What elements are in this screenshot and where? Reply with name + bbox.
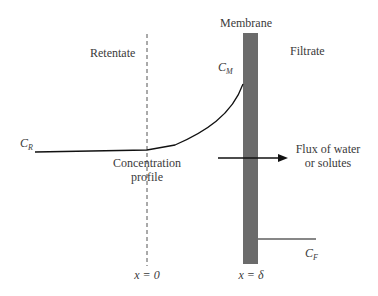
- c-m-subscript: M: [226, 67, 233, 76]
- concentration-profile-line1: Concentration: [106, 156, 188, 170]
- c-r-subscript: R: [28, 143, 33, 152]
- c-f-subscript: F: [313, 253, 318, 262]
- membrane-bar: [243, 33, 258, 264]
- membrane-label: Membrane: [220, 16, 272, 30]
- flux-line2: or solutes: [286, 156, 370, 170]
- retentate-label: Retentate: [90, 46, 135, 60]
- membrane-concentration-diagram: Membrane Retentate Filtrate CM CR CF Con…: [0, 0, 378, 296]
- concentration-profile-line2: profile: [106, 170, 188, 184]
- c-f-symbol: C: [305, 246, 313, 260]
- x-zero-label: x = 0: [122, 268, 172, 282]
- c-r-symbol: C: [20, 136, 28, 150]
- c-m-symbol: C: [218, 60, 226, 74]
- flux-line1: Flux of water: [286, 142, 370, 156]
- flux-label: Flux of water or solutes: [286, 142, 370, 170]
- filtrate-label: Filtrate: [290, 44, 325, 58]
- c-f-label: CF: [305, 246, 318, 265]
- c-m-label: CM: [218, 60, 233, 79]
- x-delta-label: x = δ: [226, 268, 276, 282]
- c-r-label: CR: [20, 136, 33, 155]
- concentration-profile-label: Concentration profile: [106, 156, 188, 184]
- concentration-profile-curve: [35, 84, 243, 152]
